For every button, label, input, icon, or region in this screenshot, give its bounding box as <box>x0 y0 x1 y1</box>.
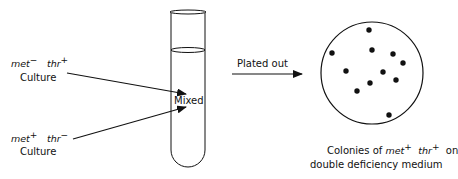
gene-met: met <box>11 133 30 144</box>
result-caption-line2: double deficiency medium <box>310 159 443 171</box>
sign: − <box>61 130 69 140</box>
test-tube <box>170 10 206 167</box>
arrow-culture1 <box>67 73 186 94</box>
gene-met: met <box>385 145 404 156</box>
gene-met: met <box>11 58 30 69</box>
petri-dish <box>321 22 423 124</box>
caption-prefix: Colonies of <box>327 145 382 156</box>
culture2-label: Culture <box>20 146 56 158</box>
tube-label: Mixed <box>174 95 204 107</box>
caption-suffix: on <box>446 145 458 156</box>
sign: + <box>432 142 440 152</box>
arrow-culture2 <box>73 107 186 139</box>
culture1-label: Culture <box>20 72 56 84</box>
sign: + <box>61 55 69 65</box>
gene-thr: thr <box>47 133 61 144</box>
gene-thr: thr <box>47 58 61 69</box>
sign: − <box>30 55 38 65</box>
result-caption-line1: Colonies of met+ thr+ on <box>327 145 458 157</box>
plated-out-label: Plated out <box>237 58 288 70</box>
culture2-genotype: met+ thr− <box>11 133 68 145</box>
sign: + <box>30 130 38 140</box>
colonies <box>329 27 405 117</box>
gene-thr: thr <box>418 145 432 156</box>
culture1-genotype: met− thr+ <box>11 58 68 70</box>
sign: + <box>404 142 412 152</box>
